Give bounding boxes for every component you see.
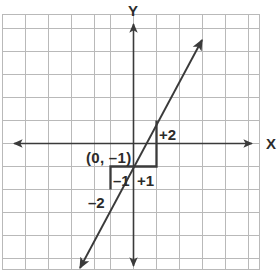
y-intercept-label: (0, –1) xyxy=(86,150,131,165)
run-positive-label: +1 xyxy=(137,173,154,188)
rise-negative-label: –2 xyxy=(88,195,105,210)
rise-positive-label: +2 xyxy=(159,127,176,142)
x-axis-label: X xyxy=(266,136,276,151)
grid-lines xyxy=(2,14,260,270)
y-axis-label: Y xyxy=(128,3,138,18)
graph-canvas xyxy=(0,0,279,279)
coordinate-graph-figure: Y X (0, –1) –1 +1 –2 +2 xyxy=(0,0,279,279)
run-negative-label: –1 xyxy=(113,173,130,188)
